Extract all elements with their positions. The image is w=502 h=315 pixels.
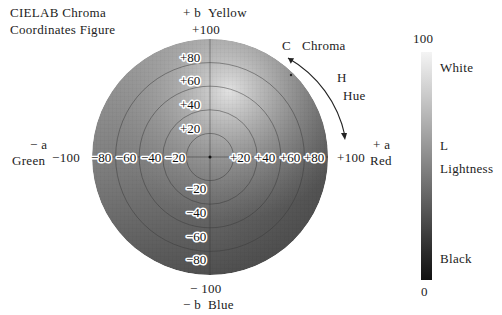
tick-a-neg60: −60 xyxy=(116,150,136,165)
lightness-min: 0 xyxy=(421,284,428,300)
tick-a-neg80: −80 xyxy=(91,150,111,165)
tick-b-neg40: −40 xyxy=(186,205,206,220)
lightness-gradient-bar xyxy=(421,52,432,280)
chroma-marker-dot xyxy=(290,74,292,76)
tick-b-40: +40 xyxy=(180,97,200,112)
white-label: White xyxy=(440,60,473,76)
black-label: Black xyxy=(440,251,472,267)
origin-dot xyxy=(209,156,212,159)
tick-b-20: +20 xyxy=(180,121,200,136)
tick-b-neg60: −60 xyxy=(186,229,206,244)
lightness-label: Lightness xyxy=(440,161,493,177)
tick-b-neg80: −80 xyxy=(186,252,206,267)
tick-a-80: +80 xyxy=(304,150,324,165)
tick-a-neg40: −40 xyxy=(141,150,161,165)
tick-a-neg20: −20 xyxy=(165,150,185,165)
tick-a-60: +60 xyxy=(280,150,300,165)
tick-b-neg20: −20 xyxy=(186,181,206,196)
tick-a-40: +40 xyxy=(255,150,275,165)
tick-b-60: +60 xyxy=(180,73,200,88)
lightness-max: 100 xyxy=(413,31,433,47)
tick-a-20: +20 xyxy=(230,150,250,165)
tick-b-80: +80 xyxy=(180,50,200,65)
lightness-letter: L xyxy=(440,138,448,154)
